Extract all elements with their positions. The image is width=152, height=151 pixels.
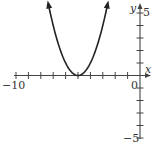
x-min-label: −10 bbox=[2, 79, 25, 92]
x-origin-label: 0 bbox=[131, 79, 138, 92]
axes bbox=[14, 3, 151, 139]
y-min-label: −5 bbox=[123, 132, 139, 145]
x-axis-label: x bbox=[145, 63, 152, 76]
curve-right-arrow-icon bbox=[104, 1, 110, 9]
parabola-curve bbox=[46, 1, 109, 76]
y-axis-label: y bbox=[129, 2, 137, 15]
parabola-graph: −10 0 x y 5 −5 bbox=[0, 0, 152, 151]
y-max-label: 5 bbox=[143, 6, 150, 19]
y-axis-arrow-icon bbox=[138, 3, 143, 9]
curve-left-arrow-icon bbox=[46, 1, 52, 9]
